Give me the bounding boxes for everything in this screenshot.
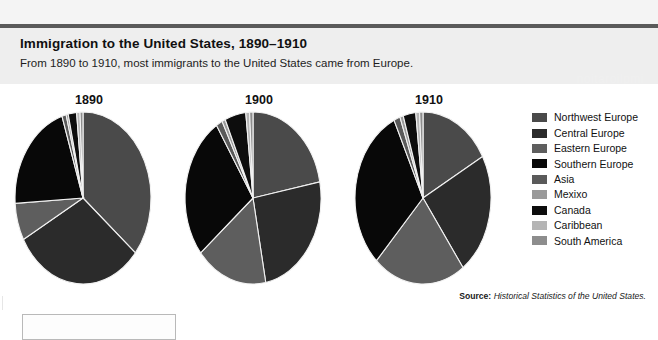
legend-item[interactable]: Asia	[532, 172, 658, 187]
legend-item-label: Eastern Europe	[554, 143, 627, 154]
legend-item[interactable]: Southern Europe	[532, 156, 658, 171]
legend-item-label: Canada	[554, 205, 591, 216]
legend-item-label: Asia	[554, 174, 574, 185]
legend-item[interactable]: South America	[532, 233, 658, 248]
legend-item-label: Caribbean	[554, 220, 602, 231]
source-text: Historical Statistics of the United Stat…	[494, 291, 646, 301]
legend-item-label: Central Europe	[554, 128, 625, 139]
legend-item[interactable]: Central Europe	[532, 125, 658, 140]
pie-chart-1890	[12, 110, 154, 286]
page-top-gutter	[0, 0, 658, 24]
legend-item-label: Southern Europe	[554, 159, 633, 170]
legend-swatch-icon	[532, 190, 547, 199]
legend-item[interactable]: Eastern Europe	[532, 141, 658, 156]
legend-item-label: Northwest Europe	[554, 112, 638, 123]
legend-swatch-icon	[532, 206, 547, 215]
legend-swatch-icon	[532, 221, 547, 230]
pie-chart-1910	[352, 110, 494, 286]
legend-item[interactable]: Caribbean	[532, 218, 658, 233]
legend-item[interactable]: Northwest Europe	[532, 110, 658, 125]
pie-title-1900: 1900	[199, 93, 319, 107]
pie-chart-1900	[182, 110, 324, 286]
legend-swatch-icon	[532, 159, 547, 168]
legend-item-label: Mexixo	[554, 189, 587, 200]
legend-item-label: South America	[554, 236, 622, 247]
pie-title-1890: 1890	[29, 93, 149, 107]
legend-swatch-icon	[532, 113, 547, 122]
page-subtitle: From 1890 to 1910, most immigrants to th…	[20, 57, 413, 69]
source-label: Source:	[459, 291, 491, 301]
legend-swatch-icon	[532, 175, 547, 184]
chart-legend: Northwest EuropeCentral EuropeEastern Eu…	[532, 110, 658, 249]
legend-item[interactable]: Mexixo	[532, 187, 658, 202]
legend-swatch-icon	[532, 144, 547, 153]
pie-title-1910: 1910	[369, 93, 489, 107]
legend-swatch-icon	[532, 236, 547, 245]
legend-swatch-icon	[532, 129, 547, 138]
legend-item[interactable]: Canada	[532, 202, 658, 217]
page-title: Immigration to the United States, 1890–1…	[20, 36, 307, 51]
source-note: Source: Historical Statistics of the Uni…	[459, 291, 646, 301]
page-bottom-box	[22, 314, 176, 340]
